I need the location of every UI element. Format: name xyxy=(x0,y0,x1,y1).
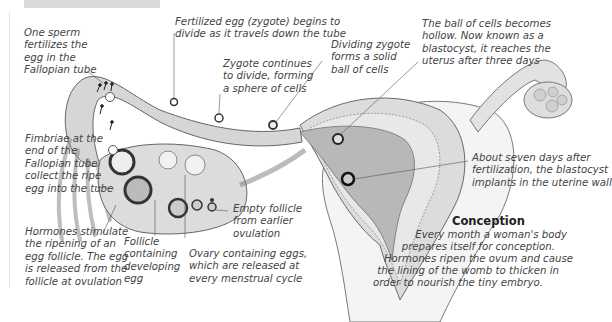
label-implantation: About seven days afterfertilization, the… xyxy=(472,152,612,189)
zygote-stage-3 xyxy=(269,121,277,129)
label-sperm-fertilizes: One spermfertilizes theegg in theFallopi… xyxy=(24,27,96,77)
label-solid-ball: Dividing zygoteforms a solidball of cell… xyxy=(331,39,410,76)
blastocyst xyxy=(333,134,343,144)
follicle-developing xyxy=(125,177,151,203)
caption-title: Conception xyxy=(452,214,525,228)
label-blastocyst: The ball of cells becomeshollow. Now kno… xyxy=(422,18,551,68)
label-hormones: Hormones stimulatethe ripening of anegg … xyxy=(25,226,128,288)
caption-body: Every month a woman's body prepares itse… xyxy=(373,229,595,289)
label-empty-follicle: Empty folliclefrom earlierovulation xyxy=(233,203,302,240)
label-zygote-divides: Fertilized egg (zygote) begins todivide … xyxy=(175,16,346,41)
label-follicle: Folliclecontainingdevelopingegg xyxy=(124,236,180,286)
zygote-stage-2 xyxy=(215,114,223,122)
label-zygote-continues: Zygote continuesto divide, forminga sphe… xyxy=(223,58,314,95)
label-ovary: Ovary containing eggs,which are released… xyxy=(189,248,307,285)
ovarian-ligament xyxy=(240,150,305,185)
label-fimbriae: Fimbriae at theend of theFallopian tubec… xyxy=(25,133,113,195)
egg-fertilized xyxy=(106,93,115,102)
zygote-stage-1 xyxy=(171,99,178,106)
blastocyst-implanting xyxy=(342,173,354,185)
